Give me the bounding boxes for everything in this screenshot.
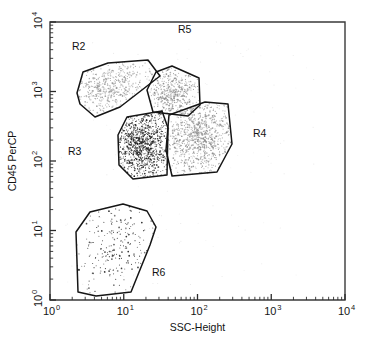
x-tick-label: 10 <box>338 305 350 317</box>
y-tick-label-group: 100 <box>30 290 44 307</box>
y-tick-label-group: 104 <box>30 12 44 29</box>
svg-text:0: 0 <box>30 290 39 294</box>
dot-cloud-R6 <box>76 204 154 293</box>
svg-text:10: 10 <box>32 295 44 307</box>
dot-cloud-R2 <box>79 61 154 115</box>
x-tick-exponent: 0 <box>56 303 60 312</box>
x-tick-exponent: 1 <box>130 303 134 312</box>
svg-text:4: 4 <box>30 12 39 16</box>
y-tick-label-group: 101 <box>30 220 44 237</box>
axis-ticks <box>50 22 345 300</box>
x-tick-label: 10 <box>43 305 55 317</box>
y-axis-title: CD45 PerCP <box>6 131 18 192</box>
region-label-R3: R3 <box>68 145 82 157</box>
svg-text:10: 10 <box>32 156 44 168</box>
region-label-R5: R5 <box>178 23 192 35</box>
dot-cloud-R3 <box>118 112 167 177</box>
x-tick-exponent: 2 <box>204 303 208 312</box>
svg-text:10: 10 <box>32 225 44 237</box>
data-points-layer <box>61 42 314 294</box>
region-label-R2: R2 <box>72 40 86 52</box>
flow-cytometry-plot: 100101102103104100101102103104 R2R5R3R4R… <box>0 0 368 343</box>
x-axis-title: SSC-Height <box>170 321 226 333</box>
plot-canvas: 100101102103104100101102103104 R2R5R3R4R… <box>0 0 368 343</box>
x-tick-label: 10 <box>117 305 129 317</box>
x-tick-exponent: 3 <box>277 303 281 312</box>
svg-text:1: 1 <box>30 220 39 224</box>
region-label-R4: R4 <box>253 127 267 139</box>
plot-border <box>50 22 345 300</box>
gate-polygon-R6[interactable] <box>76 204 156 296</box>
region-label-R6: R6 <box>152 266 166 278</box>
x-tick-label: 10 <box>191 305 203 317</box>
y-axis-title-group: CD45 PerCP <box>6 131 18 192</box>
x-tick-exponent: 4 <box>351 303 355 312</box>
plot-frame <box>50 22 345 300</box>
y-tick-label-group: 102 <box>30 151 44 168</box>
svg-text:10: 10 <box>32 17 44 29</box>
tick-labels-layer: 100101102103104100101102103104 <box>30 12 355 317</box>
x-tick-label: 10 <box>264 305 276 317</box>
svg-text:2: 2 <box>30 151 39 155</box>
svg-text:3: 3 <box>30 81 39 85</box>
y-tick-label-group: 103 <box>30 81 44 98</box>
svg-text:10: 10 <box>32 86 44 98</box>
